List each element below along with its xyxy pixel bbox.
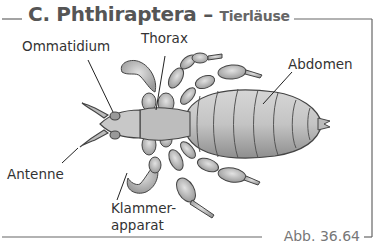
label-klammerapparat: Klammer- apparat xyxy=(111,200,176,234)
label-antenne: Antenne xyxy=(7,166,64,183)
label-thorax: Thorax xyxy=(141,30,188,47)
figure-caption: Abb. 36.64 xyxy=(280,228,364,244)
title-text: Phthiraptera xyxy=(56,2,196,26)
subtitle: Tierläuse xyxy=(220,8,290,24)
label-klammer-line2: apparat xyxy=(111,217,176,234)
figure-title: C. Phthiraptera – Tierläuse xyxy=(24,2,294,26)
abdomen-shape xyxy=(184,89,330,158)
head-thorax xyxy=(80,103,190,147)
label-abdomen: Abdomen xyxy=(288,56,353,73)
section-letter: C. xyxy=(28,2,50,26)
title-separator: – xyxy=(203,2,213,26)
label-ommatidium: Ommatidium xyxy=(22,38,110,55)
label-klammer-line1: Klammer- xyxy=(111,200,176,217)
